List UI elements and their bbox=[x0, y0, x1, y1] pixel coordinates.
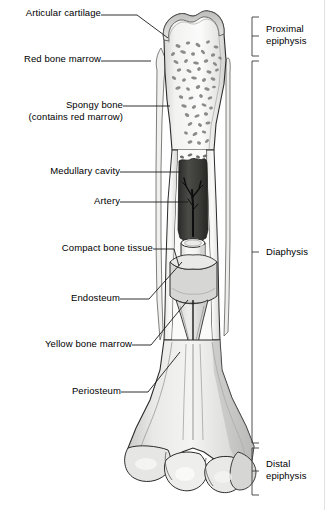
region-diaphysis-line1: Diaphysis bbox=[266, 246, 308, 257]
region-distal-line1: Distal bbox=[266, 458, 290, 469]
bracket-proximal-epiphysis bbox=[252, 17, 259, 56]
region-distal-line2: epiphysis bbox=[266, 470, 307, 482]
region-label-diaphysis: Diaphysis bbox=[266, 246, 308, 258]
region-proximal-line1: Proximal bbox=[266, 23, 304, 34]
region-label-distal-epiphysis: Distal epiphysis bbox=[266, 458, 307, 482]
bracket-distal-epiphysis bbox=[252, 448, 259, 495]
bracket-diaphysis bbox=[252, 61, 259, 443]
region-proximal-line2: epiphysis bbox=[266, 35, 307, 47]
bone-anatomy-figure: Articular cartilage Red bone marrow Spon… bbox=[0, 0, 326, 511]
region-label-proximal-epiphysis: Proximal epiphysis bbox=[266, 23, 307, 47]
